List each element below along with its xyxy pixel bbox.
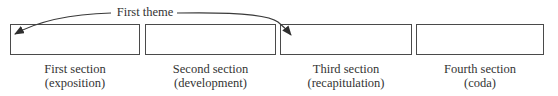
- second-section-box: [145, 24, 276, 55]
- first-section-title: First section: [10, 62, 140, 76]
- third-section-box: [280, 24, 412, 55]
- third-section-subtitle: (recapitulation): [280, 76, 412, 90]
- first-section-box: [10, 24, 140, 55]
- sonata-form-diagram: First theme First section (exposition) S…: [0, 0, 558, 96]
- fourth-section-label: Fourth section (coda): [416, 62, 544, 90]
- third-section-label: Third section (recapitulation): [280, 62, 412, 90]
- fourth-section-title: Fourth section: [416, 62, 544, 76]
- second-section-subtitle: (development): [145, 76, 276, 90]
- fourth-section-box: [416, 24, 544, 55]
- fourth-section-subtitle: (coda): [416, 76, 544, 90]
- second-section-label: Second section (development): [145, 62, 276, 90]
- first-section-label: First section (exposition): [10, 62, 140, 90]
- first-section-subtitle: (exposition): [10, 76, 140, 90]
- third-section-title: Third section: [280, 62, 412, 76]
- second-section-title: Second section: [145, 62, 276, 76]
- first-theme-label: First theme: [114, 5, 176, 19]
